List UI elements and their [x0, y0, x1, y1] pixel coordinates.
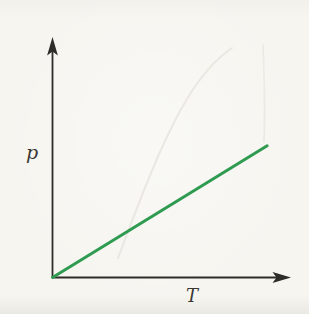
- y-axis-label: p: [22, 143, 42, 162]
- pressure-temperature-graph: p T: [0, 0, 309, 314]
- data-line: [53, 146, 268, 278]
- chart-canvas: [0, 0, 309, 314]
- ghost-curve-2: [263, 45, 265, 142]
- x-axis-label: T: [181, 287, 203, 305]
